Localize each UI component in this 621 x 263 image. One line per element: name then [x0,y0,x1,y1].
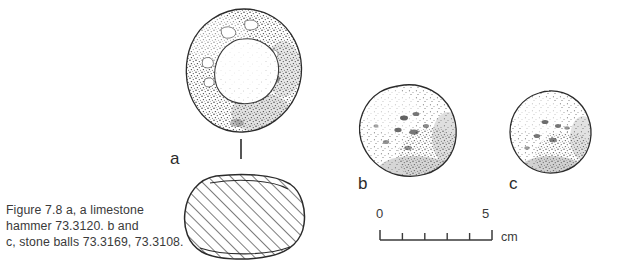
hammer-plan-view-drawing [183,5,305,137]
ball-b-surface-stipple [352,82,466,184]
figure-caption: Figure 7.8 a, a limestone hammer 73.3120… [6,202,186,251]
plate-label-b: b [358,175,367,192]
archaeological-figure: Figure 7.8 a, a limestone hammer 73.3120… [0,0,621,263]
scale-label-end: 5 [482,206,489,221]
section-hatching [180,172,310,262]
caption-line-3: c, stone balls 73.3169, 73.3108. [6,234,186,250]
caption-line-1: Figure 7.8 a, a limestone [6,202,186,218]
plate-label-a: a [170,150,179,167]
scale-label-start: 0 [376,206,383,221]
caption-line-2: hammer 73.3120. b and [6,218,186,234]
ball-c-surface-stipple [503,88,597,180]
scale-unit-label: cm [501,230,518,244]
plate-label-c: c [509,175,518,192]
stone-ball-b-drawing [352,82,464,182]
scale-bar-ruler [374,226,506,246]
scale-bar: 0 5 cm [370,206,520,254]
hammer-cross-section-drawing [180,172,310,262]
stone-ball-c-drawing [503,88,597,180]
section-indicator-tick-icon [236,138,246,160]
